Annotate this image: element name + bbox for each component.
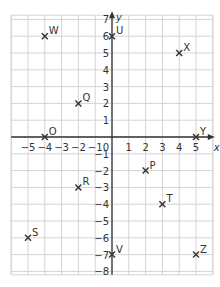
point-q: Q <box>75 92 90 106</box>
x-tick-label: 2 <box>142 142 148 153</box>
x-tick-label: −4 <box>37 142 52 153</box>
point-z: Z <box>193 244 207 258</box>
y-tick-label: −6 <box>94 233 109 244</box>
y-tick-label: −7 <box>94 250 109 261</box>
y-tick-label: −3 <box>94 182 109 193</box>
point-y: Y <box>193 126 207 140</box>
x-tick-label: −2 <box>71 142 86 153</box>
x-tick-label: −5 <box>21 142 36 153</box>
y-tick-label: −1 <box>94 149 109 160</box>
x-tick-label: −3 <box>54 142 69 153</box>
point-label: Z <box>200 244 207 255</box>
point-label: V <box>116 244 123 255</box>
y-tick-label: 6 <box>103 31 109 42</box>
x-tick-label: 1 <box>126 142 132 153</box>
coordinate-grid: xy −5−4−3−2−11234507654321−1−2−3−4−5−6−7… <box>0 0 220 287</box>
point-label: S <box>32 227 38 238</box>
point-label: U <box>116 25 123 36</box>
x-tick-label: 5 <box>193 142 199 153</box>
x-tick-label: 3 <box>159 142 165 153</box>
y-tick-label: −4 <box>94 199 109 210</box>
x-axis-arrow-icon <box>208 134 215 140</box>
point-v: V <box>109 244 123 258</box>
y-tick-label: 1 <box>103 115 109 126</box>
y-tick-label: 5 <box>103 48 109 59</box>
point-t: T <box>159 193 173 207</box>
y-axis-label: y <box>115 12 123 23</box>
point-s: S <box>25 227 38 241</box>
y-tick-label: −8 <box>94 266 109 277</box>
point-label: Y <box>199 126 207 137</box>
point-label: T <box>165 193 173 204</box>
y-tick-label: 2 <box>103 98 109 109</box>
point-label: R <box>82 176 89 187</box>
point-x: X <box>176 42 190 56</box>
y-tick-label: 4 <box>103 65 109 76</box>
y-tick-label: −5 <box>94 216 109 227</box>
x-axis-label: x <box>213 142 220 153</box>
point-label: O <box>49 126 57 137</box>
point-p: P <box>143 160 156 174</box>
point-label: W <box>49 25 59 36</box>
x-tick-label: 4 <box>176 142 182 153</box>
point-r: R <box>75 176 89 190</box>
point-u: U <box>109 25 123 39</box>
point-label: Q <box>82 92 90 103</box>
point-label: X <box>183 42 190 53</box>
y-tick-label: −2 <box>94 166 109 177</box>
y-tick-label: 7 <box>103 14 109 25</box>
y-tick-label: 3 <box>103 82 109 93</box>
point-label: P <box>150 160 156 171</box>
point-o: O <box>42 126 57 140</box>
